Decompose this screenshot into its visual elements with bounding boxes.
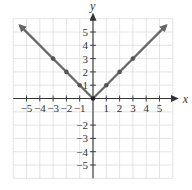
data-point <box>117 70 122 75</box>
x-tick-label: −5 <box>21 102 33 114</box>
y-tick-label: −3 <box>76 132 88 144</box>
y-tick-label: −2 <box>76 119 88 131</box>
y-tick-label: −4 <box>76 146 88 158</box>
data-point <box>51 56 56 61</box>
y-tick-label: 3 <box>83 53 89 65</box>
x-tick-label: 4 <box>143 102 149 114</box>
y-tick-label: −5 <box>76 159 88 171</box>
x-tick-label: −3 <box>47 102 59 114</box>
x-tick-label: −4 <box>34 102 46 114</box>
data-point <box>64 70 69 75</box>
y-tick-label: 4 <box>83 39 89 51</box>
x-tick-label: 3 <box>130 102 136 114</box>
x-axis-label: x <box>182 92 189 106</box>
x-tick-label: −2 <box>61 102 73 114</box>
x-tick-label: 1 <box>104 102 110 114</box>
absolute-value-graph: xy −5−4−3−2−112345−5−4−3−212345 <box>0 0 192 190</box>
y-axis-label: y <box>89 0 96 13</box>
x-tick-label: 2 <box>117 102 123 114</box>
x-tick-label: −1 <box>74 102 86 114</box>
data-point <box>91 96 96 101</box>
data-point <box>104 83 109 88</box>
y-tick-label: 5 <box>83 26 89 38</box>
data-point <box>131 56 136 61</box>
graph-line-right <box>93 25 166 98</box>
data-point <box>77 83 82 88</box>
y-tick-label: 2 <box>83 66 89 78</box>
x-tick-label: 5 <box>157 102 163 114</box>
